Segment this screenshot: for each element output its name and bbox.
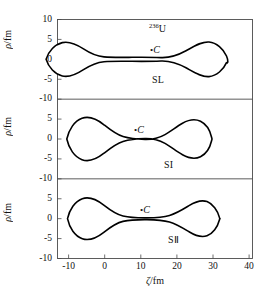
x-tick-label-m10: -10 — [56, 262, 82, 272]
x-tick-label-0: 0 — [92, 262, 118, 272]
x-axis-label: ζ/fm — [105, 275, 205, 286]
x-tick-label-40: 40 — [236, 262, 262, 272]
y-tick-label-p1-0: 0 — [30, 55, 52, 65]
figure-236u-fission-shapes: ρ/fm ρ/fm ρ/fm — [0, 0, 268, 290]
x-tick-label-30: 30 — [200, 262, 226, 272]
y-tick-label-p2-5: 5 — [30, 114, 52, 124]
y-tick-label-p2-m5: -5 — [30, 154, 52, 164]
panel-tag-sl: SL — [152, 74, 164, 85]
y-tick-label-p1-5: 5 — [30, 35, 52, 45]
y-tick-label-p3-0: 0 — [30, 214, 52, 224]
nuclear-shape-sl — [46, 42, 228, 77]
panel-tag-si: SI — [164, 159, 174, 170]
center-marker-sl: •C — [150, 45, 160, 55]
y-tick-label-p2-0: 0 — [30, 134, 52, 144]
y-tick-label-p1-10: 10 — [30, 15, 52, 25]
y-tick-label-p3-5: 5 — [30, 194, 52, 204]
center-marker-s2: •C — [140, 205, 150, 215]
y-tick-label-p2-m10: -10 — [30, 174, 52, 184]
x-tick-label-20: 20 — [164, 262, 190, 272]
center-marker-si: •C — [134, 125, 144, 135]
x-tick-marks — [69, 255, 250, 259]
y-tick-label-p3-m10: -10 — [30, 254, 52, 264]
y-tick-label-p1-m5: -5 — [30, 75, 52, 85]
x-tick-label-10: 10 — [128, 262, 154, 272]
panel-tag-s2: SⅡ — [168, 234, 179, 245]
y-tick-label-p1-m10: -10 — [30, 94, 52, 104]
nuclide-label: 236U — [149, 22, 166, 34]
y-tick-label-p3-m5: -5 — [30, 234, 52, 244]
